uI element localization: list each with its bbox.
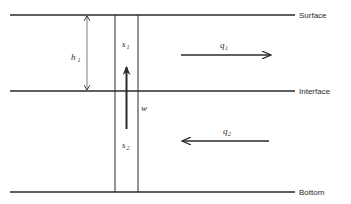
- interface-boundary: Interface: [10, 87, 331, 96]
- surface-boundary: Surface: [10, 11, 327, 20]
- bottom-boundary: Bottom: [10, 188, 325, 197]
- h1-symbol: h1: [71, 52, 81, 63]
- two-layer-flow-diagram: Surface Interface Bottom h1 s1 s2 w q1 q…: [0, 0, 351, 204]
- s1-symbol: s1: [122, 39, 130, 50]
- bottom-label: Bottom: [299, 188, 325, 197]
- lower-layer-flow: q2: [182, 126, 269, 141]
- surface-label: Surface: [299, 11, 327, 20]
- interface-label: Interface: [299, 87, 331, 96]
- layer-thickness-dimension: h1: [71, 16, 87, 90]
- fluid-column: s1 s2 w: [115, 15, 147, 192]
- q1-symbol: q1: [220, 40, 228, 51]
- w-symbol: w: [141, 103, 147, 113]
- upper-layer-flow: q1: [181, 40, 271, 55]
- q2-symbol: q2: [223, 126, 231, 137]
- s2-symbol: s2: [122, 140, 130, 151]
